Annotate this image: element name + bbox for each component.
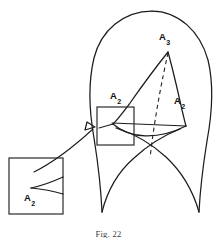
swallowtail-chord [112,123,186,126]
a2-right-label-subscript: 2 [181,103,185,110]
a2-right-label-base: A [174,95,181,106]
a3-cusp-label: A3 [159,31,170,42]
inset-cusp-lower-branch [31,188,63,194]
a2-inset-label-subscript: 2 [31,200,35,207]
a2-left-label-subscript: 2 [117,98,121,105]
a2-left-label: A2 [110,90,121,101]
figure-container: A3 A2 A2 A2 Fig. 22 [0,0,217,238]
pointer-arrow-head [85,122,95,130]
swallowtail-left-branch [113,52,168,124]
a3-label-base: A [159,31,166,42]
inset-box [9,158,63,214]
figure-caption: Fig. 22 [0,229,217,238]
a2-inset-label: A2 [24,192,35,203]
a2-inset-label-base: A [24,192,31,203]
inset-cusp-upper-branch [31,177,63,188]
swallowtail-right-branch [168,52,186,126]
a2-left-label-base: A [110,90,117,101]
a3-label-subscript: 3 [166,39,170,46]
a2-left-tail [99,124,113,128]
a2-right-label: A2 [174,95,185,106]
dashed-axis-line [150,53,168,158]
outer-region-left-boundary [90,11,152,212]
fold-curve-left-sweep [102,129,180,212]
